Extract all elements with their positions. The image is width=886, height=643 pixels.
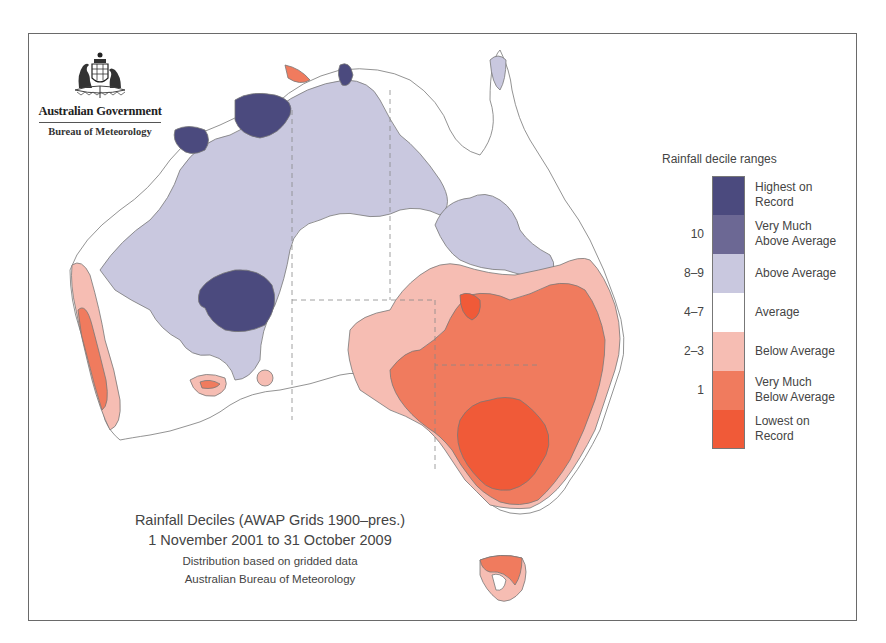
legend-item-highest: Highest onRecord xyxy=(662,176,852,215)
region-below-average-wa-2 xyxy=(257,370,273,386)
legend-range: 8–9 xyxy=(662,266,704,280)
legend-swatch xyxy=(712,215,745,254)
legend-label: Very MuchAbove Average xyxy=(755,219,855,249)
legend-item-very-much-above: 10 Very MuchAbove Average xyxy=(662,215,852,254)
legend-swatch xyxy=(712,371,745,410)
legend: Rainfall decile ranges Highest onRecord … xyxy=(662,152,852,449)
legend-label: Highest onRecord xyxy=(755,180,855,210)
legend-range: 1 xyxy=(662,383,704,397)
caption-title: Rainfall Deciles (AWAP Grids 1900–pres.) xyxy=(110,510,430,530)
legend-label: Average xyxy=(755,305,855,320)
legend-label: Above Average xyxy=(755,266,855,281)
legend-item-lowest: Lowest onRecord xyxy=(662,410,852,449)
legend-label: Very MuchBelow Average xyxy=(755,375,855,405)
region-very-much-below-north xyxy=(285,65,310,83)
caption-note: Distribution based on gridded data xyxy=(110,552,430,570)
legend-item-very-much-below: 1 Very MuchBelow Average xyxy=(662,371,852,410)
caption-period: 1 November 2001 to 31 October 2009 xyxy=(110,530,430,550)
legend-swatch xyxy=(712,410,745,449)
legend-swatch xyxy=(712,254,745,293)
map-caption: Rainfall Deciles (AWAP Grids 1900–pres.)… xyxy=(110,510,430,588)
legend-label: Lowest onRecord xyxy=(755,414,855,444)
legend-item-below: 2–3 Below Average xyxy=(662,332,852,371)
legend-label: Below Average xyxy=(755,344,855,359)
legend-swatch xyxy=(712,332,745,371)
legend-title: Rainfall decile ranges xyxy=(662,152,852,166)
legend-swatch xyxy=(712,176,745,215)
legend-range: 10 xyxy=(662,227,704,241)
caption-source: Australian Bureau of Meteorology xyxy=(110,570,430,588)
legend-range: 2–3 xyxy=(662,344,704,358)
legend-item-average: 4–7 Average xyxy=(662,293,852,332)
legend-swatch xyxy=(712,293,745,332)
legend-range: 4–7 xyxy=(662,305,704,319)
legend-item-above: 8–9 Above Average xyxy=(662,254,852,293)
